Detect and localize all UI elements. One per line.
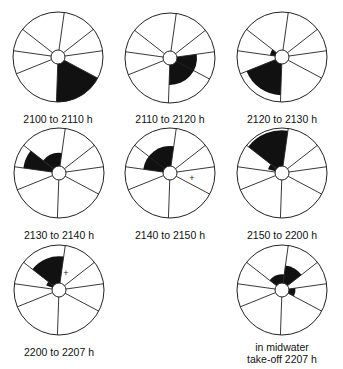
hub-circle [275, 50, 289, 64]
spoke [237, 51, 275, 56]
spoke [280, 180, 281, 218]
spoke [65, 145, 95, 168]
spoke [66, 284, 104, 289]
rose-diagram-7: + [14, 245, 104, 335]
spoke [17, 176, 52, 190]
spoke [177, 167, 215, 172]
spoke [135, 30, 165, 53]
spoke [171, 13, 176, 51]
spoke [64, 29, 94, 52]
spoke [288, 176, 322, 194]
hub-circle [51, 50, 65, 64]
spoke [289, 167, 327, 172]
spoke [60, 128, 65, 166]
spoke [14, 284, 52, 289]
spoke [13, 51, 51, 56]
diagram-canvas: ++ [0, 0, 343, 369]
rose-diagram-3 [237, 12, 327, 102]
plus-mark-icon: + [63, 268, 68, 278]
panel-label-4: 2130 to 2140 h [4, 229, 114, 241]
spoke [240, 293, 275, 307]
spoke [288, 145, 318, 168]
plus-mark-icon: + [189, 173, 194, 183]
hub-circle [163, 166, 177, 180]
panel-label-1: 2100 to 2110 h [3, 113, 113, 125]
spoke [283, 12, 288, 50]
filled-sector [247, 57, 282, 95]
panel-label-6: 2150 to 2200 h [227, 229, 337, 241]
spoke [57, 297, 58, 335]
spoke [17, 293, 52, 307]
spoke [23, 29, 53, 52]
spoke [288, 293, 322, 311]
spoke [128, 176, 163, 190]
spoke [237, 284, 275, 289]
panel-label-3: 2120 to 2130 h [227, 113, 337, 125]
spoke [16, 60, 51, 74]
spoke [288, 60, 322, 78]
spoke [240, 176, 275, 190]
rose-diagram-2 [125, 13, 215, 103]
hub-circle [275, 283, 289, 297]
spoke [247, 262, 277, 285]
spoke [288, 29, 318, 52]
hub-circle [52, 283, 66, 297]
spoke [65, 51, 103, 56]
rose-diagram-8 [237, 245, 327, 335]
hub-circle [275, 166, 289, 180]
panel-label-7: 2200 to 2207 h [4, 346, 114, 358]
spoke [289, 51, 327, 56]
spoke [176, 145, 206, 168]
hub-circle [52, 166, 66, 180]
spoke [280, 297, 281, 335]
panel-label-8: in midwatertake-off 2207 h [227, 341, 337, 365]
spoke [125, 52, 163, 57]
hub-circle [163, 51, 177, 65]
spoke [247, 29, 277, 52]
spoke [59, 12, 64, 50]
spoke [128, 61, 163, 75]
spoke [65, 293, 99, 311]
label-line: take-off 2207 h [227, 353, 337, 365]
spoke [65, 176, 99, 194]
panel-label-5: 2140 to 2150 h [115, 229, 225, 241]
rose-diagram-6 [237, 128, 327, 218]
rose-diagram-1 [13, 12, 103, 102]
spoke [168, 180, 169, 218]
spoke [289, 284, 327, 289]
spoke [65, 262, 95, 285]
spoke [66, 167, 104, 172]
spoke [57, 180, 58, 218]
filled-sector [56, 57, 97, 102]
rose-diagram-4 [14, 128, 104, 218]
label-line: in midwater [227, 341, 337, 353]
panel-label-2: 2110 to 2120 h [115, 113, 225, 125]
spoke [176, 30, 206, 53]
rose-diagram-5: + [125, 128, 215, 218]
